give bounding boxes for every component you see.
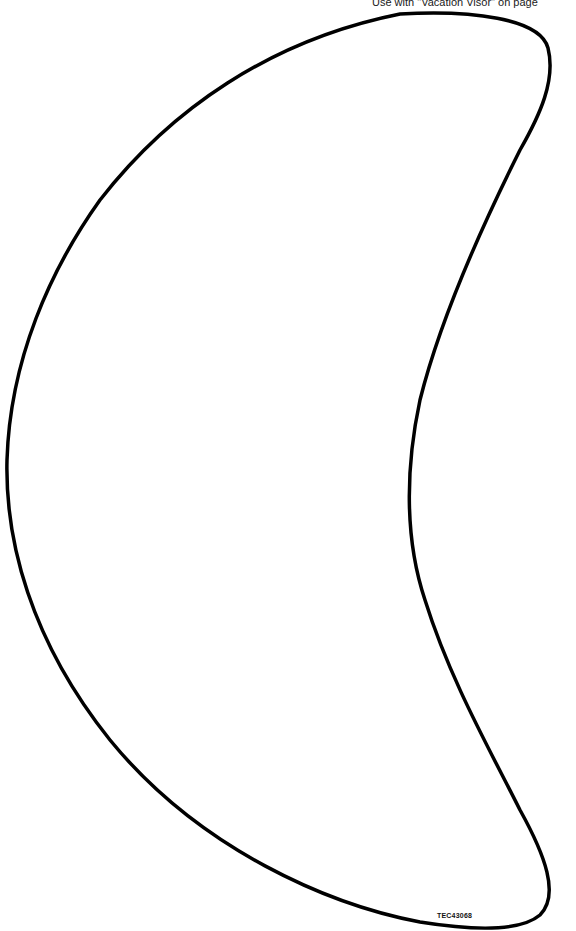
crescent-moon-outline [0,0,576,931]
product-code-label: TEC43068 [437,912,472,919]
crescent-path [7,13,550,928]
